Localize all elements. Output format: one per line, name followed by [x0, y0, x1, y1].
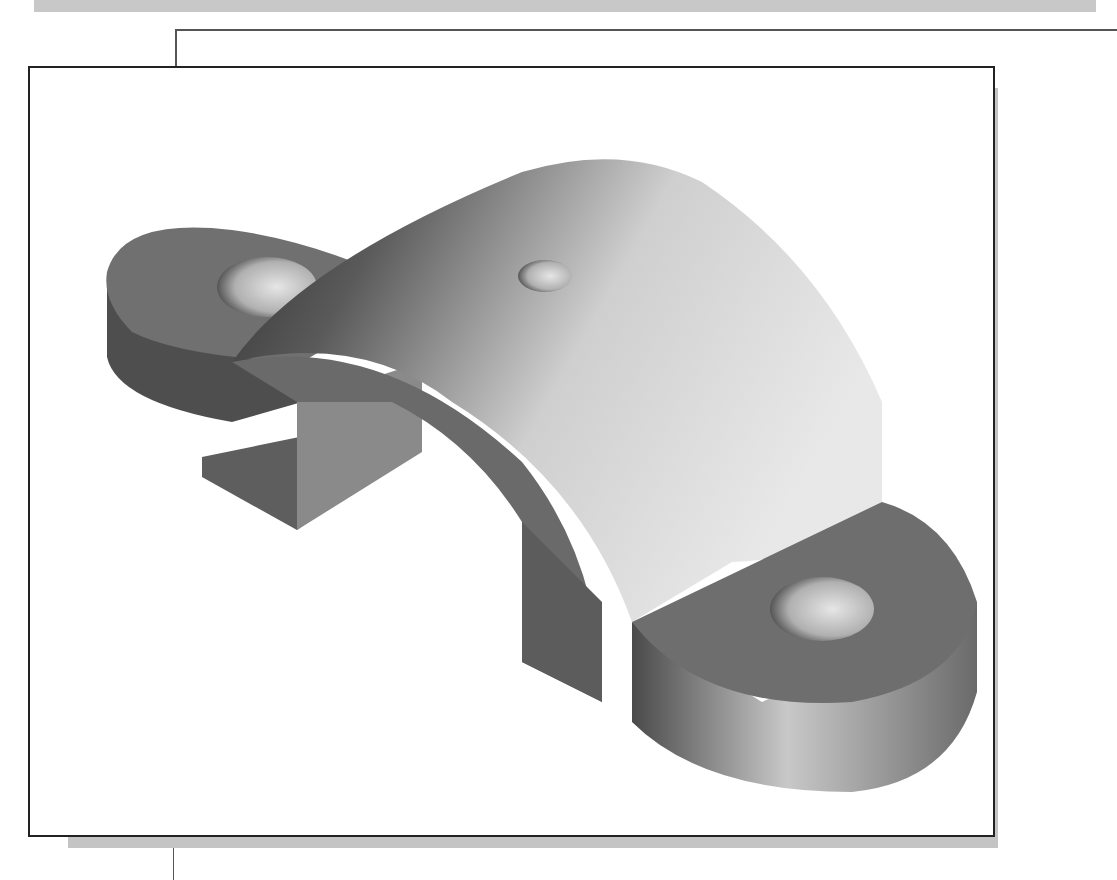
connector-line	[173, 846, 174, 880]
bracket-model	[30, 68, 993, 835]
figure-frame	[28, 66, 995, 837]
back-frame	[175, 29, 1117, 71]
top-band	[34, 0, 1096, 12]
